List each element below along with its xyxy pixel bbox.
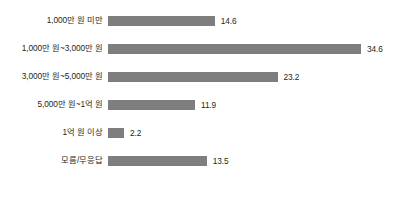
category-label: 1,000만 원~3,000만 원: [0, 44, 108, 53]
bar-track: 23.2: [108, 66, 409, 88]
bar-value-label: 14.6: [221, 16, 237, 26]
bar-track: 2.2: [108, 122, 409, 144]
category-label: 3,000만 원~5,000만 원: [0, 72, 108, 81]
bar-value-label: 23.2: [284, 72, 300, 82]
bar-fill[interactable]: [108, 44, 361, 54]
bar-value-label: 2.2: [130, 128, 141, 138]
bar-track: 13.5: [108, 150, 409, 172]
bar-track: 14.6: [108, 10, 409, 32]
bar-value-label: 34.6: [367, 44, 383, 54]
bar-row: 모름/무응답 13.5: [0, 150, 409, 172]
bar-track: 34.6: [108, 38, 409, 60]
category-label: 모름/무응답: [0, 156, 108, 165]
category-label: 1,000만 원 미만: [0, 16, 108, 25]
bar-value-label: 13.5: [213, 156, 229, 166]
bar-row: 1,000만 원 미만 14.6: [0, 10, 409, 32]
bar-fill[interactable]: [108, 128, 124, 138]
bar-track: 11.9: [108, 94, 409, 116]
bar-row: 1억 원 이상 2.2: [0, 122, 409, 144]
bar-value-label: 11.9: [201, 100, 216, 110]
bar-fill[interactable]: [108, 16, 215, 26]
bar-fill[interactable]: [108, 100, 195, 110]
bar-chart: 1,000만 원 미만 14.6 1,000만 원~3,000만 원 34.6 …: [0, 0, 409, 202]
bar-row: 1,000만 원~3,000만 원 34.6: [0, 38, 409, 60]
bar-fill[interactable]: [108, 72, 278, 82]
bar-row: 3,000만 원~5,000만 원 23.2: [0, 66, 409, 88]
category-label: 5,000만 원~1억 원: [0, 100, 108, 109]
bar-fill[interactable]: [108, 156, 207, 166]
category-label: 1억 원 이상: [0, 128, 108, 137]
bar-row: 5,000만 원~1억 원 11.9: [0, 94, 409, 116]
chart-plot-area: 1,000만 원 미만 14.6 1,000만 원~3,000만 원 34.6 …: [0, 0, 409, 202]
